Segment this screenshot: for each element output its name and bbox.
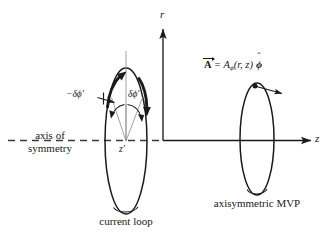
angle-wedge-lines xyxy=(112,98,143,142)
equation-unit-vector: ˆϕ xyxy=(256,60,262,71)
angle-arc-negative xyxy=(109,105,124,119)
vector-A-symbol: A xyxy=(204,60,212,71)
current-direction-arrow-upper-right xyxy=(139,79,151,117)
mvp-caption: axisymmetric MVP xyxy=(198,198,316,209)
axis-of-symmetry-line2: symmetry xyxy=(19,142,81,155)
figure-canvas: r z axis of symmetry −δϕ′ δϕ′ z′ current… xyxy=(0,0,336,242)
current-loop-caption: current loop xyxy=(82,216,170,227)
z-axis-label: z xyxy=(315,133,319,144)
axis-of-symmetry-label: axis of symmetry xyxy=(19,129,81,154)
angle-arc-positive xyxy=(128,105,145,123)
mvp-loop-ellipse xyxy=(240,83,274,195)
axis-of-symmetry-line1: axis of xyxy=(19,129,81,142)
source-position-label: z′ xyxy=(119,145,125,155)
mvp-equation: A=Aϕ(r, z)ˆϕ xyxy=(204,60,262,72)
negative-angle-label: −δϕ′ xyxy=(66,90,84,100)
equation-arguments: (r, z) xyxy=(234,59,253,70)
hat-accent-icon: ˆ xyxy=(257,52,260,62)
r-axis-label: r xyxy=(160,9,164,20)
mvp-vector-arrow xyxy=(257,87,283,94)
positive-angle-label: δϕ′ xyxy=(128,90,139,100)
